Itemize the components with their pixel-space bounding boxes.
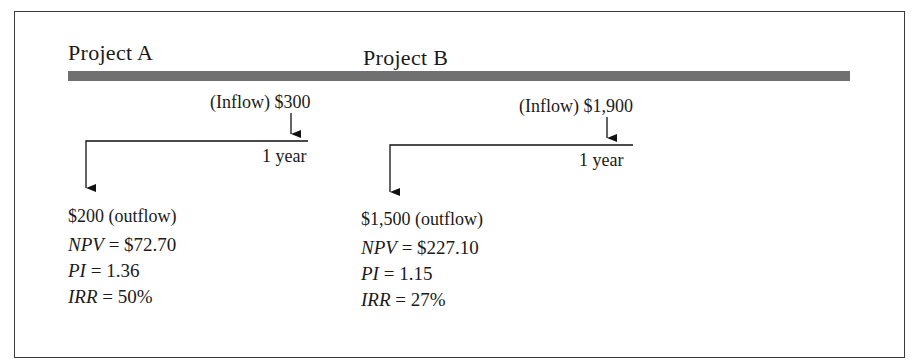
- project-a-outflow-label: $200 (outflow): [68, 206, 176, 227]
- project-a-period-label: 1 year: [262, 146, 306, 167]
- project-b-pi: PI = 1.15: [361, 263, 432, 285]
- project-a-pi: PI = 1.36: [68, 260, 139, 282]
- project-b-npv: NPV = $227.10: [361, 237, 479, 259]
- project-b-outflow-label: $1,500 (outflow): [361, 209, 483, 230]
- project-b-inflow-label: (Inflow) $1,900: [519, 96, 633, 117]
- project-b-irr: IRR = 27%: [361, 289, 446, 311]
- project-b-period-label: 1 year: [579, 150, 623, 171]
- project-a-npv: NPV = $72.70: [68, 234, 176, 256]
- project-a-inflow-label: (Inflow) $300: [210, 92, 310, 113]
- project-a-irr: IRR = 50%: [68, 286, 153, 308]
